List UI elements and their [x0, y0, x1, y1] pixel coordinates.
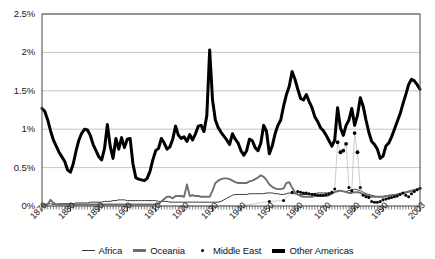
series-marker-middle-east	[296, 190, 299, 193]
series-marker-middle-east	[401, 191, 404, 194]
series-marker-middle-east	[396, 195, 399, 198]
series-marker-middle-east	[390, 196, 393, 199]
series-marker-middle-east	[347, 186, 350, 189]
series-marker-middle-east	[359, 186, 362, 189]
series-marker-middle-east	[316, 194, 319, 197]
series-marker-middle-east	[365, 195, 368, 198]
series-marker-middle-east	[328, 192, 331, 195]
series-marker-middle-east	[299, 191, 302, 194]
series-line-other-americas	[42, 50, 420, 181]
series-marker-middle-east	[399, 193, 402, 196]
series-marker-middle-east	[336, 140, 340, 144]
series-marker-middle-east	[393, 195, 396, 198]
dot-marker-icon	[196, 246, 209, 256]
series-marker-middle-east	[330, 191, 333, 194]
series-marker-middle-east	[313, 193, 316, 196]
data-series-group	[42, 50, 422, 206]
series-marker-middle-east	[291, 191, 294, 194]
series-marker-middle-east	[302, 191, 305, 194]
series-marker-middle-east	[333, 188, 336, 191]
series-marker-middle-east	[384, 198, 387, 201]
series-marker-middle-east	[416, 188, 419, 191]
series-marker-middle-east	[410, 192, 413, 195]
y-axis-tick-label: 1%	[1, 123, 35, 134]
series-marker-middle-east	[413, 190, 416, 193]
legend-item-middle-east[interactable]: Middle East	[196, 245, 262, 256]
y-axis-tick-label: 1.5%	[1, 85, 35, 96]
y-axis-tick-label: 2.5%	[1, 8, 35, 19]
series-marker-middle-east	[308, 192, 311, 195]
series-marker-middle-east	[407, 195, 410, 198]
thin-line-icon	[82, 246, 95, 256]
series-marker-middle-east	[282, 199, 285, 202]
series-marker-middle-east	[311, 193, 314, 196]
series-marker-middle-east	[350, 189, 353, 192]
series-marker-middle-east	[362, 194, 365, 197]
legend-item-other-americas[interactable]: Other Americas	[272, 245, 353, 256]
legend-item-label: Africa	[99, 245, 123, 256]
series-marker-middle-east	[387, 197, 390, 200]
series-marker-middle-east	[341, 149, 345, 153]
y-axis-tick-label: 0.5%	[1, 162, 35, 173]
series-marker-middle-east	[356, 150, 360, 154]
thick-line-icon	[272, 246, 285, 256]
legend-item-oceania[interactable]: Oceania	[133, 245, 185, 256]
legend-item-label: Middle East	[213, 245, 262, 256]
series-marker-middle-east	[305, 191, 308, 194]
series-marker-middle-east	[322, 194, 325, 197]
legend-item-label: Oceania	[150, 245, 185, 256]
legend-item-africa[interactable]: Africa	[82, 245, 123, 256]
series-marker-middle-east	[319, 194, 322, 197]
series-marker-middle-east	[344, 142, 348, 146]
chart-plot-area	[0, 0, 435, 259]
y-axis-tick-label: 2%	[1, 46, 35, 57]
series-marker-middle-east	[373, 201, 376, 204]
chart-legend: AfricaOceaniaMiddle EastOther Americas	[0, 245, 435, 256]
legend-item-label: Other Americas	[289, 245, 353, 256]
series-marker-middle-east	[404, 194, 407, 197]
medium-line-icon	[133, 246, 146, 256]
series-marker-middle-east	[370, 200, 373, 203]
y-axis-tick-label: 0%	[1, 200, 35, 211]
series-marker-middle-east	[325, 193, 328, 196]
series-marker-middle-east	[353, 131, 357, 135]
chart-container: 0%0.5%1%1.5%2%2.5% 187018801890190019101…	[0, 0, 435, 259]
series-marker-middle-east	[367, 196, 370, 199]
